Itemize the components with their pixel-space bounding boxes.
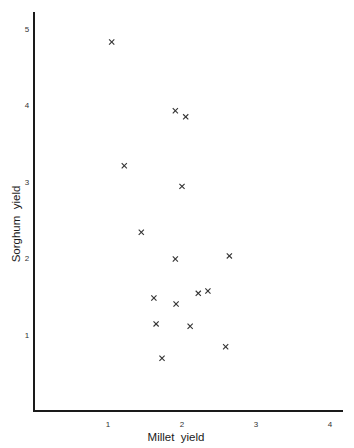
- x-marker-icon: [183, 114, 188, 119]
- y-tick-label: 4: [25, 101, 30, 110]
- y-tick-label: 3: [25, 178, 30, 187]
- x-axis-title: Millet yield: [148, 431, 205, 443]
- x-marker-icon: [223, 344, 228, 349]
- x-marker-icon: [179, 184, 184, 189]
- x-marker-icon: [188, 324, 193, 329]
- x-tick-label: 3: [254, 420, 259, 429]
- x-tick-labels: 1234: [106, 420, 333, 429]
- x-tick-label: 2: [180, 420, 185, 429]
- plot-area: [33, 12, 343, 411]
- x-marker-icon: [173, 256, 178, 261]
- y-tick-label: 1: [25, 331, 30, 340]
- y-tick-labels: 12345: [25, 25, 30, 340]
- x-marker-icon: [227, 253, 232, 258]
- y-tick-label: 5: [25, 25, 30, 34]
- x-marker-icon: [154, 321, 159, 326]
- x-tick-label: 1: [106, 420, 111, 429]
- x-marker-icon: [139, 230, 144, 235]
- y-axis-title: Sorghum yield: [10, 186, 22, 263]
- y-tick-label: 2: [25, 254, 30, 263]
- x-marker-icon: [159, 356, 164, 361]
- x-marker-icon: [173, 301, 178, 306]
- data-markers: [109, 39, 232, 360]
- x-tick-label: 4: [328, 420, 333, 429]
- x-marker-icon: [196, 291, 201, 296]
- x-marker-icon: [173, 108, 178, 113]
- x-marker-icon: [151, 295, 156, 300]
- x-marker-icon: [122, 163, 127, 168]
- x-marker-icon: [109, 39, 114, 44]
- scatter-chart: 1234 12345 Millet yield Sorghum yield: [0, 0, 354, 448]
- x-marker-icon: [205, 288, 210, 293]
